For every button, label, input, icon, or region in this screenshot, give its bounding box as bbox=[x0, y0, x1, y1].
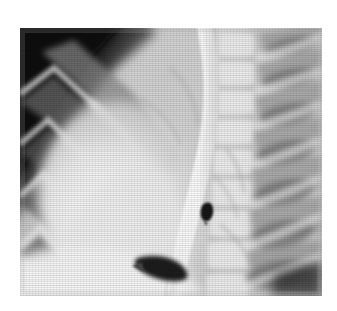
radiograph-svg bbox=[20, 28, 322, 296]
screenshot-root bbox=[0, 0, 337, 311]
radiograph-image bbox=[20, 28, 322, 296]
radiograph-plate bbox=[20, 28, 322, 296]
